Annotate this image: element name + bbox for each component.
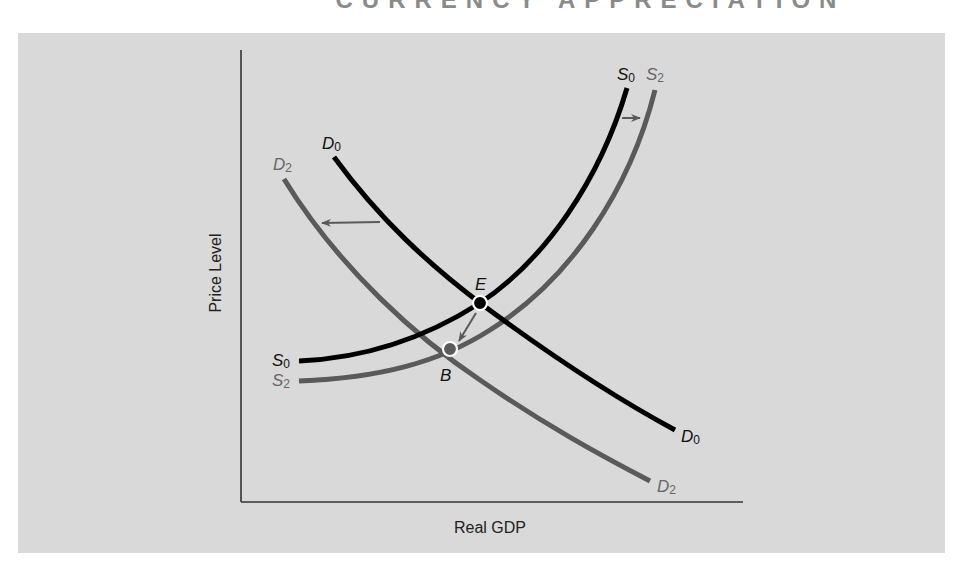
arrow-e-to-b	[459, 313, 476, 341]
label-d2-top: D2	[273, 155, 292, 175]
point-b-label: B	[440, 366, 451, 385]
x-axis-label: Real GDP	[454, 519, 526, 536]
point-b-marker	[443, 342, 457, 356]
label-s2-top: S2	[646, 65, 664, 85]
curve-d0	[334, 157, 675, 430]
label-d0-end: D0	[681, 427, 700, 447]
label-d0-top: D0	[322, 134, 341, 154]
axes	[241, 50, 743, 502]
y-axis-label: Price Level	[207, 233, 224, 312]
label-s0-top: S0	[617, 65, 635, 85]
curve-s0	[299, 88, 627, 361]
point-e-marker	[473, 296, 487, 310]
arrow-demand-shift-left	[322, 222, 380, 223]
curve-s2	[299, 90, 655, 381]
label-d2-end: D2	[657, 477, 676, 497]
label-s0-left: S0	[272, 351, 290, 371]
label-s2-left: S2	[272, 371, 290, 391]
point-e-label: E	[475, 275, 487, 294]
chart-figure: E B D0 D2 S0 S2 S0 S2 D0 D2 Real GDP Pri…	[0, 0, 961, 571]
